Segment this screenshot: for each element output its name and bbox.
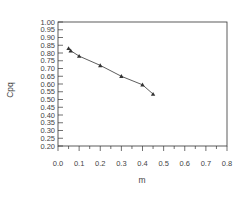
x-tick-label: 0.1 (74, 159, 84, 168)
x-tick-label: 0.8 (222, 159, 232, 168)
x-axis-title: m (138, 175, 145, 185)
x-tick-label: 0.6 (180, 159, 190, 168)
y-axis-title: Cpq (5, 82, 15, 98)
y-axis: 1.000.950.900.850.800.750.700.650.600.55… (40, 18, 63, 151)
x-tick-label: 0.5 (158, 159, 168, 168)
triangle-marker (119, 74, 123, 78)
x-tick-label: 0.7 (201, 159, 211, 168)
triangle-marker (77, 54, 81, 58)
x-tick-label: 0.3 (116, 159, 126, 168)
data-series (66, 46, 155, 96)
y-tick-label: 0.20 (40, 142, 55, 151)
x-tick-label: 0.4 (137, 159, 147, 168)
triangle-marker (98, 63, 102, 67)
series-line (69, 48, 154, 94)
x-axis: 0.00.10.20.30.40.50.60.70.8 (53, 146, 232, 168)
chart: 1.000.950.900.850.800.750.700.650.600.55… (0, 0, 245, 199)
x-tick-label: 0.2 (95, 159, 105, 168)
x-tick-label: 0.0 (53, 159, 63, 168)
